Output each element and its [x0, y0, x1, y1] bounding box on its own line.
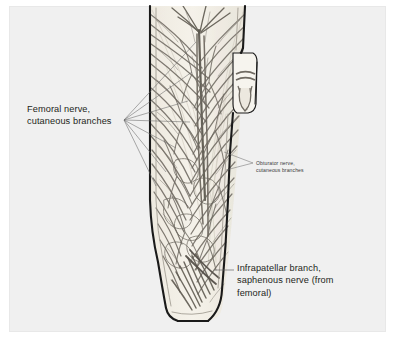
- label-infrapatellar-line1: Infrapatellar branch,: [237, 262, 334, 274]
- label-obturator-line1: Obturator nerve,: [256, 160, 304, 167]
- thigh-nerve-illustration: [0, 0, 395, 341]
- label-infrapatellar-line3: femoral): [237, 287, 334, 299]
- label-femoral-nerve: Femoral nerve, cutaneous branches: [27, 103, 112, 128]
- label-femoral-line1: Femoral nerve,: [27, 103, 112, 115]
- label-obturator-line2: cutaneous branches: [256, 167, 304, 174]
- label-infrapatellar-branch: Infrapatellar branch, saphenous nerve (f…: [237, 262, 334, 299]
- anatomy-figure: Femoral nerve, cutaneous branches Obtura…: [0, 0, 395, 341]
- skin-flap: [233, 53, 257, 113]
- label-femoral-line2: cutaneous branches: [27, 115, 112, 127]
- label-obturator-nerve: Obturator nerve, cutaneous branches: [256, 160, 304, 174]
- label-infrapatellar-line2: saphenous nerve (from: [237, 274, 334, 286]
